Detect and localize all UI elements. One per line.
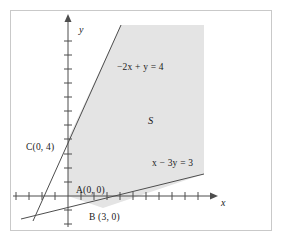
point-label-a: A(0, 0) [76, 185, 105, 195]
shaded-region-s [68, 25, 204, 208]
x-axis-arrowhead-icon [210, 193, 218, 200]
coordinate-plot [11, 11, 271, 230]
point-label-c: C(0, 4) [26, 142, 54, 152]
figure-frame: −2x + y = 4 x − 3y = 3 S C(0, 4) A(0, 0)… [10, 10, 272, 231]
line-equation-label-upper: −2x + y = 4 [117, 62, 164, 72]
y-axis-arrowhead-icon [65, 14, 72, 22]
y-axis-label: y [79, 24, 83, 35]
x-axis-label: x [221, 197, 225, 208]
line-equation-label-lower: x − 3y = 3 [152, 158, 193, 168]
point-label-b: B (3, 0) [89, 212, 120, 222]
region-label-s: S [148, 115, 153, 126]
